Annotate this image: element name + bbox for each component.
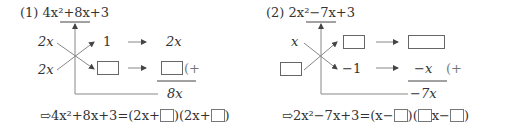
p2-factor2-const-answer-box[interactable] [450, 109, 464, 122]
p1-left-top-factor: 2x [38, 35, 54, 48]
cross-lines-2 [304, 22, 447, 94]
cross-lines-1 [57, 22, 196, 94]
p2-right-top-answer-box[interactable] [343, 35, 365, 49]
p1-left-bottom-factor: 2x [38, 63, 54, 76]
p1-product-bottom-answer-box[interactable] [161, 61, 183, 75]
p1-factor1-answer-box[interactable] [160, 109, 174, 122]
p1-factor2-prefix: (2x+ [179, 108, 211, 123]
problem-2-number: (2) [266, 5, 284, 20]
p2-result-line: ⇨2x²−7x+3=(x−)(x−) [282, 109, 469, 122]
p1-equals: = [117, 108, 128, 123]
p1-factor2-suffix: ) [225, 108, 230, 123]
p1-right-bottom-answer-box[interactable] [97, 61, 119, 75]
p2-plus-mark: (+ [446, 62, 462, 75]
problem-2-expression: 2x²−7x+3 [289, 5, 355, 20]
p1-result-lhs: 4x²+8x+3 [51, 108, 117, 123]
problem-1-number: (1) [20, 5, 38, 20]
p2-right-bottom-factor: −1 [342, 62, 361, 75]
p1-sum: 8x [167, 87, 183, 100]
problem-1-header: (1) 4x²+8x+3 [20, 6, 109, 19]
p2-factor1-answer-box[interactable] [394, 109, 408, 122]
p2-factor2-mid: x− [432, 108, 450, 123]
p2-result-lhs: 2x²−7x+3 [293, 108, 359, 123]
p1-product-top: 2x [166, 35, 182, 48]
p1-factor2-answer-box[interactable] [211, 109, 225, 122]
p2-factor2-suffix: ) [464, 108, 469, 123]
p2-equals: = [359, 108, 370, 123]
p2-product-top-answer-box[interactable] [408, 35, 445, 49]
p2-sum: −7x [410, 87, 437, 100]
p2-factor1-prefix: (x− [370, 108, 393, 123]
problem-2-header: (2) 2x²−7x+3 [266, 6, 355, 19]
p1-result-arrow-icon: ⇨ [40, 108, 51, 123]
p1-right-top-factor: 1 [103, 35, 111, 48]
p2-left-top-factor: x [291, 35, 298, 48]
p2-result-arrow-icon: ⇨ [282, 108, 293, 123]
problem-1-expression: 4x²+8x+3 [43, 5, 109, 20]
p1-result-line: ⇨4x²+8x+3=(2x+)(2x+) [40, 109, 230, 122]
p1-plus-mark: (+ [184, 62, 200, 75]
p1-factor1-prefix: (2x+ [128, 108, 160, 123]
p2-product-bottom: −x [414, 62, 432, 75]
p2-left-bottom-answer-box[interactable] [280, 62, 302, 76]
p2-factor2-coef-answer-box[interactable] [418, 109, 432, 122]
